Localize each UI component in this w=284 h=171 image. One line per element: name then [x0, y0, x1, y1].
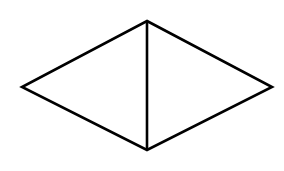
figure-background — [0, 0, 284, 171]
rhombus-figure — [0, 0, 284, 171]
